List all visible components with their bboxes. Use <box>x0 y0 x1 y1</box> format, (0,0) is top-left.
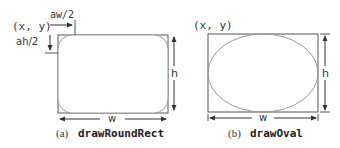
oval-shape <box>208 34 318 112</box>
round-rect-shape <box>58 35 168 113</box>
caption-method-b: drawOval <box>250 127 303 140</box>
origin-label-a: (x, y) <box>12 20 52 33</box>
panel-round-rect <box>45 20 174 119</box>
ah-label: ah/2 <box>16 36 38 47</box>
width-label-a: w <box>108 113 116 124</box>
width-label-b: w <box>259 112 267 123</box>
aw-label: aw/2 <box>50 9 74 20</box>
panel-oval <box>208 34 330 121</box>
caption-method-a: drawRoundRect <box>78 127 164 140</box>
height-label-a: h <box>171 67 178 80</box>
caption-prefix-a: (a) <box>56 127 69 140</box>
caption-prefix-b: (b) <box>228 127 241 140</box>
height-label-b: h <box>322 67 329 80</box>
origin-label-b: (x, y) <box>193 19 233 32</box>
diagram: (x, y) aw/2 ah/2 h w (a) drawRoundRect (… <box>0 0 340 148</box>
